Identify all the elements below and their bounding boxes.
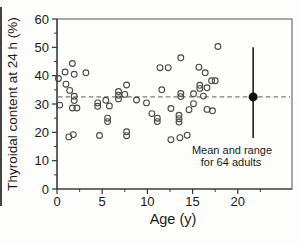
x-tick-label: 20	[231, 194, 245, 209]
data-point	[191, 91, 197, 97]
data-point	[201, 93, 207, 99]
y-tick-label: 20	[35, 125, 49, 140]
annotation-line2: for 64 adults	[201, 156, 262, 168]
x-axis-title: Age (y)	[150, 211, 197, 227]
x-tick-label: 15	[185, 194, 199, 209]
adult-mean-marker	[249, 92, 258, 101]
y-tick-label: 10	[35, 153, 49, 168]
data-point	[83, 70, 89, 76]
data-point	[157, 65, 163, 71]
data-point	[116, 96, 122, 102]
data-point	[168, 137, 174, 143]
scatter-plot-figure: 051015200102030405060 Thyroidal content …	[0, 0, 302, 243]
chart-canvas: 051015200102030405060 Thyroidal content …	[0, 0, 302, 243]
data-point	[165, 65, 171, 71]
data-point	[62, 69, 68, 75]
data-point	[204, 85, 210, 91]
data-point	[184, 132, 190, 138]
y-tick-label: 30	[35, 97, 49, 112]
data-point	[134, 97, 140, 103]
data-point	[124, 133, 130, 139]
annotation-line1: Mean and range	[192, 144, 272, 156]
x-tick-label: 5	[99, 194, 106, 209]
data-point	[103, 97, 109, 103]
data-point	[210, 108, 216, 114]
y-tick-label: 60	[35, 12, 49, 27]
data-point	[204, 107, 210, 113]
data-point	[186, 107, 192, 113]
data-point	[97, 133, 103, 139]
data-point	[178, 55, 184, 61]
x-tick-label: 0	[53, 194, 60, 209]
data-point	[215, 44, 221, 50]
data-point	[144, 100, 150, 106]
scan-edge-artifact	[0, 7, 2, 206]
y-tick-label: 40	[35, 68, 49, 83]
data-point	[168, 106, 174, 112]
data-point	[122, 92, 128, 98]
y-tick-label: 0	[42, 182, 49, 197]
data-point	[107, 103, 113, 109]
data-point	[63, 81, 69, 87]
y-tick-label: 50	[35, 40, 49, 55]
data-point	[71, 98, 77, 104]
scatter-points-group	[56, 44, 221, 143]
data-point	[196, 64, 202, 70]
data-point	[56, 76, 62, 82]
x-tick-label: 10	[140, 194, 154, 209]
axis-tick-labels: 051015200102030405060	[35, 12, 245, 210]
data-point	[67, 88, 73, 94]
data-point	[71, 71, 77, 77]
data-point	[177, 135, 183, 141]
data-point	[70, 61, 76, 67]
data-point	[191, 101, 197, 107]
data-point	[124, 82, 130, 88]
data-point	[159, 87, 165, 93]
data-point	[202, 70, 208, 76]
y-axis-title: Thyroidal content at 24 h (%)	[5, 17, 20, 190]
data-point	[212, 78, 218, 84]
data-point	[57, 102, 63, 108]
data-point	[149, 111, 155, 117]
